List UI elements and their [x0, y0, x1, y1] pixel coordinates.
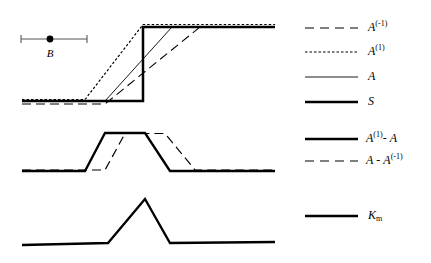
curve-km — [22, 199, 275, 245]
legend-text-operand: A — [390, 131, 397, 145]
legend-text-base: K — [368, 208, 376, 222]
bottom-panel — [22, 199, 275, 245]
scalebar-label-b: B — [47, 48, 54, 59]
curve-a-plus-1 — [22, 25, 275, 100]
scalebar-center-dot — [47, 36, 54, 43]
legend-label-a-minus-aminus1: A - A(-1) — [366, 154, 403, 166]
legend-text-base: A — [368, 69, 375, 83]
legend-text-operand-exponent: (-1) — [391, 152, 403, 161]
curve-a1-minus-a — [22, 133, 275, 171]
legend-label-a: A — [368, 70, 375, 82]
middle-panel — [22, 133, 275, 171]
legend-text-exponent: (1) — [373, 130, 382, 139]
legend-lines — [305, 28, 358, 216]
legend-label-km: Km — [368, 209, 382, 221]
legend-text-base: S — [368, 94, 374, 108]
legend-text-exponent: (-1) — [375, 19, 387, 28]
figure-container: B A(-1) A(1) A S A(1)- A A - A(-1) Km — [0, 0, 431, 263]
legend-text-operand: A — [383, 153, 390, 167]
legend-text-exponent: (1) — [375, 43, 384, 52]
curve-a — [22, 27, 275, 101]
scalebar-b — [21, 35, 87, 43]
legend-text-subscript: m — [376, 214, 382, 223]
legend-text-operator: - — [383, 131, 387, 145]
legend-label-a1-minus-a: A(1)- A — [366, 132, 397, 144]
legend-label-s: S — [368, 95, 374, 107]
legend-text-base: A — [366, 153, 373, 167]
legend-text-operator: - — [376, 153, 380, 167]
curve-s — [22, 27, 275, 101]
top-panel — [22, 25, 275, 105]
legend-label-a-minus-1: A(-1) — [368, 21, 387, 33]
legend-label-a-plus-1: A(1) — [368, 45, 385, 57]
